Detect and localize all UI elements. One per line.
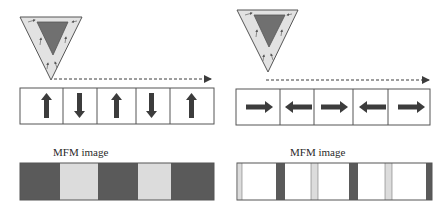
left-mfm-tip bbox=[20, 17, 82, 80]
right-domain-row bbox=[236, 89, 430, 125]
right-mfm-label: MFM image bbox=[290, 146, 345, 158]
right-mfm-tip bbox=[237, 10, 298, 72]
left-mfm-label: MFM image bbox=[53, 146, 108, 158]
mfm-diagram bbox=[0, 0, 446, 211]
left-mfm-image bbox=[20, 163, 214, 200]
left-domain-row bbox=[20, 88, 214, 124]
right-mfm-image bbox=[237, 163, 432, 200]
